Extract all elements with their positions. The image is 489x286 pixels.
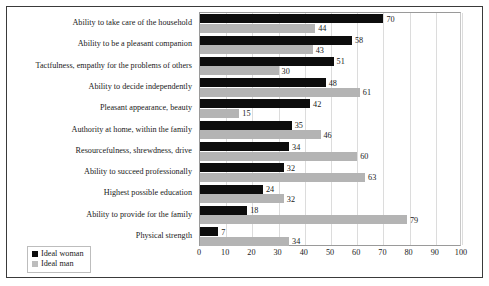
bar-ideal-woman[interactable]	[200, 14, 383, 23]
x-tick-label: 50	[326, 248, 334, 258]
bar-row: 32	[200, 194, 462, 203]
bar-row: 42	[200, 99, 462, 108]
bar-ideal-man[interactable]	[200, 109, 239, 118]
x-axis: 0102030405060708090100	[199, 247, 461, 261]
bar-value-label: 60	[357, 152, 368, 161]
bar-ideal-woman[interactable]	[200, 78, 326, 87]
category-label: Ability to provide for the family	[7, 210, 192, 219]
bar-ideal-woman[interactable]	[200, 57, 334, 66]
chart-frame: Ability to take care of the householdAbi…	[6, 6, 483, 278]
bar-value-label: 46	[321, 130, 332, 139]
bar-value-label: 48	[326, 78, 337, 87]
legend-item[interactable]: Ideal woman	[32, 249, 84, 259]
bar-value-label: 7	[218, 227, 225, 236]
x-tick-label: 40	[300, 248, 308, 258]
bar-ideal-man[interactable]	[200, 66, 279, 75]
bar-row: 60	[200, 152, 462, 161]
bar-value-label: 58	[352, 36, 363, 45]
bar-value-label: 18	[247, 206, 258, 215]
bar-value-label: 63	[365, 173, 376, 182]
bar-ideal-man[interactable]	[200, 24, 315, 33]
plot-area: 7044584351304861421535463460326324321879…	[199, 12, 461, 246]
bar-ideal-man[interactable]	[200, 130, 321, 139]
bar-value-label: 79	[407, 215, 418, 224]
bar-row: 79	[200, 215, 462, 224]
bar-ideal-woman[interactable]	[200, 121, 292, 130]
bar-ideal-woman[interactable]	[200, 185, 263, 194]
bar-value-label: 34	[289, 142, 300, 151]
category-label: Physical strength	[7, 231, 192, 240]
bar-ideal-man[interactable]	[200, 45, 313, 54]
bar-value-label: 32	[284, 194, 295, 203]
bar-row: 34	[200, 142, 462, 151]
legend-item[interactable]: Ideal man	[32, 259, 84, 269]
category-labels-axis: Ability to take care of the householdAbi…	[7, 12, 198, 246]
bar-row: 35	[200, 121, 462, 130]
category-label: Ability to be a pleasant companion	[7, 39, 192, 48]
bar-ideal-man[interactable]	[200, 152, 357, 161]
category-label: Ability to decide independently	[7, 82, 192, 91]
bar-row: 34	[200, 237, 462, 246]
bar-ideal-woman[interactable]	[200, 99, 310, 108]
bar-ideal-man[interactable]	[200, 173, 365, 182]
x-tick-label: 80	[405, 248, 413, 258]
gridline-100	[462, 13, 463, 245]
bar-row: 70	[200, 14, 462, 23]
bar-ideal-man[interactable]	[200, 88, 360, 97]
bar-row: 48	[200, 78, 462, 87]
bar-value-label: 35	[292, 121, 303, 130]
legend-swatch-icon	[32, 251, 38, 257]
bar-value-label: 42	[310, 99, 321, 108]
bar-row: 24	[200, 185, 462, 194]
bar-row: 58	[200, 36, 462, 45]
x-tick-label: 100	[455, 248, 467, 258]
bars-layer: 7044584351304861421535463460326324321879…	[200, 13, 460, 245]
x-tick-label: 30	[274, 248, 282, 258]
bar-ideal-woman[interactable]	[200, 142, 289, 151]
bar-value-label: 15	[239, 109, 250, 118]
legend-swatch-icon	[32, 261, 38, 267]
bar-value-label: 51	[334, 57, 345, 66]
bar-ideal-woman[interactable]	[200, 36, 352, 45]
bar-value-label: 30	[279, 66, 290, 75]
x-tick-label: 90	[431, 248, 439, 258]
bar-ideal-woman[interactable]	[200, 206, 247, 215]
x-tick-label: 0	[197, 248, 201, 258]
bar-row: 63	[200, 173, 462, 182]
bar-row: 46	[200, 130, 462, 139]
bar-value-label: 34	[289, 237, 300, 246]
chart-legend: Ideal womanIdeal man	[27, 246, 91, 273]
category-label: Ability to succeed professionally	[7, 167, 192, 176]
bar-value-label: 43	[313, 45, 324, 54]
x-tick-label: 60	[352, 248, 360, 258]
bar-row: 30	[200, 66, 462, 75]
bar-ideal-woman[interactable]	[200, 227, 218, 236]
legend-label: Ideal woman	[41, 249, 84, 259]
bar-ideal-man[interactable]	[200, 215, 407, 224]
category-label: Ability to take care of the household	[7, 18, 192, 27]
bar-row: 7	[200, 227, 462, 236]
bar-row: 51	[200, 57, 462, 66]
bar-ideal-man[interactable]	[200, 194, 284, 203]
bar-row: 61	[200, 88, 462, 97]
bar-value-label: 32	[284, 163, 295, 172]
bar-row: 43	[200, 45, 462, 54]
category-label: Highest possible education	[7, 188, 192, 197]
bar-value-label: 24	[263, 185, 274, 194]
bar-row: 32	[200, 163, 462, 172]
bar-value-label: 70	[383, 14, 394, 23]
bar-ideal-woman[interactable]	[200, 163, 284, 172]
category-label: Authority at home, within the family	[7, 125, 192, 134]
category-label: Tactfulness, empathy for the problems of…	[7, 61, 192, 70]
bar-row: 18	[200, 206, 462, 215]
category-label: Pleasant appearance, beauty	[7, 103, 192, 112]
bar-value-label: 61	[360, 88, 371, 97]
x-tick-label: 70	[378, 248, 386, 258]
x-tick-label: 10	[221, 248, 229, 258]
bar-ideal-man[interactable]	[200, 237, 289, 246]
bar-row: 15	[200, 109, 462, 118]
category-label: Resourcefulness, shrewdness, drive	[7, 146, 192, 155]
legend-label: Ideal man	[41, 259, 74, 269]
x-tick-label: 20	[247, 248, 255, 258]
bar-row: 44	[200, 24, 462, 33]
